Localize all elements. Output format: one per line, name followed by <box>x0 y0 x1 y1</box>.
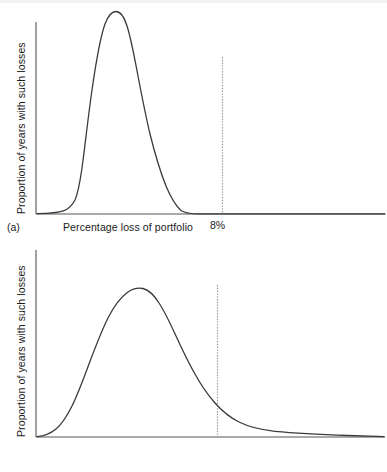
panel-b-y-axis-label: Proportion of years with such losses <box>15 265 27 437</box>
panel-a-tag: (a) <box>7 221 20 233</box>
panel-b-curve <box>37 288 384 436</box>
panel-a-threshold-label: 8% <box>210 219 225 231</box>
panel-a-plot <box>0 0 387 240</box>
panel-a-x-axis-label: Percentage loss of portfolio <box>63 221 193 233</box>
panel-a: Proportion of years with such losses Per… <box>0 0 387 240</box>
panel-b: Proportion of years with such losses Per… <box>0 240 387 472</box>
figure-container: Proportion of years with such losses Per… <box>0 0 387 472</box>
panel-a-y-axis-label: Proportion of years with such losses <box>15 42 27 214</box>
panel-b-plot <box>0 240 387 472</box>
panel-a-curve <box>37 12 385 214</box>
